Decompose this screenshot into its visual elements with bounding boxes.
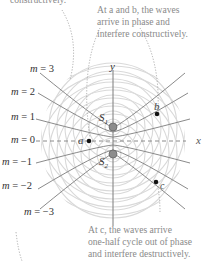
source-s2-label: S2 <box>99 155 108 170</box>
caption-bottom-line3: and interfere destructively. <box>88 248 190 260</box>
caption-top-left: constructively. <box>10 0 66 6</box>
caption-bottom-line2: one-half cycle out of phase <box>88 236 192 248</box>
m-label-0: m = 0 <box>11 134 35 145</box>
m-label-neg3: m = −3 <box>24 206 54 217</box>
m-label-1: m = 1 <box>11 111 35 122</box>
source-s1-label: S1 <box>99 111 108 126</box>
point-c-label: c <box>160 180 164 191</box>
y-axis-label: y <box>110 60 115 72</box>
point-b <box>155 112 160 117</box>
source-s2 <box>109 150 117 158</box>
callout-arrow-top-left <box>62 10 74 80</box>
point-b-label: b <box>154 100 160 112</box>
m-label-3: m = 3 <box>30 63 54 74</box>
callout-arrow-bottom-left <box>16 232 22 261</box>
caption-top-right-line3: interfere constructively. <box>97 28 188 40</box>
x-axis-label: x <box>196 134 201 146</box>
point-a-label: a <box>78 134 84 146</box>
caption-top-right-line2: arrive in phase and <box>97 16 170 28</box>
caption-top-right-line1: At a and b, the waves <box>97 4 180 16</box>
m-label-neg2: m = −2 <box>2 180 32 191</box>
point-a <box>87 139 92 144</box>
m-label-neg1: m = −1 <box>2 156 32 167</box>
source-s1 <box>109 123 117 131</box>
caption-bottom-line1: At c, the waves arrive <box>88 224 172 236</box>
m-label-2: m = 2 <box>11 86 35 97</box>
point-c <box>154 180 159 185</box>
